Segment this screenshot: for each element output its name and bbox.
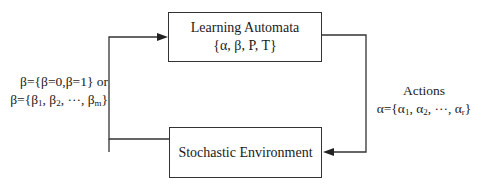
- response-line-1: β={β=0,β=1} or: [8, 73, 108, 91]
- environment-title: Stochastic Environment: [178, 144, 312, 162]
- feedback-connector: [109, 37, 169, 139]
- automata-tuple: {α, β, P, T}: [213, 37, 276, 55]
- response-line-2: β={β1, β2, ···, βm}: [8, 91, 108, 112]
- actions-title: Actions: [370, 82, 478, 100]
- actions-set: α={α1, α2, ···, αr}: [370, 100, 478, 121]
- response-label: β={β=0,β=1} or β={β1, β2, ···, βm}: [8, 73, 108, 112]
- arrowhead-into-environment-icon: [323, 148, 334, 156]
- stochastic-environment-box: Stochastic Environment: [169, 127, 322, 178]
- actions-connector: [322, 35, 366, 152]
- arrowhead-into-automata-icon: [157, 33, 168, 41]
- automata-title: Learning Automata: [191, 19, 299, 37]
- actions-label: Actions α={α1, α2, ···, αr}: [370, 82, 478, 121]
- learning-automata-box: Learning Automata {α, β, P, T}: [168, 12, 322, 62]
